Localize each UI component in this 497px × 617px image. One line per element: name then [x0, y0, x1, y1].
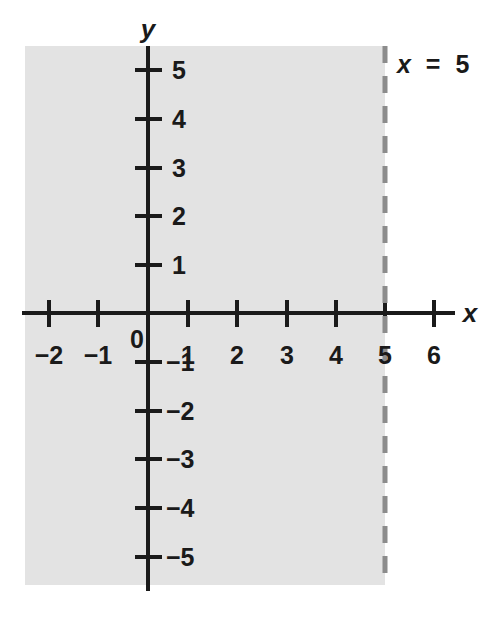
- y-tick-label: 4: [172, 105, 186, 133]
- x-tick-label: 2: [230, 341, 244, 369]
- y-tick-label: 2: [172, 202, 186, 230]
- equation-variable: x: [395, 50, 412, 78]
- y-tick-label: −1: [166, 348, 195, 376]
- x-tick-label: 4: [329, 341, 343, 369]
- coordinate-plane-figure: −2 −1 0 1 2 3 4 5 6 5 4 3 2 1 −1 −2 −3 −…: [0, 0, 497, 617]
- y-tick-label: 5: [172, 56, 186, 84]
- shaded-region-x-less-than-5: [25, 46, 385, 585]
- equation-value: 5: [455, 50, 469, 78]
- x-tick-label: −1: [84, 341, 113, 369]
- y-tick-label: −4: [166, 494, 195, 522]
- y-tick-label: 3: [172, 154, 186, 182]
- y-tick-label: 1: [172, 251, 186, 279]
- x-tick-label: −2: [35, 341, 64, 369]
- origin-label: 0: [130, 325, 144, 353]
- y-tick-label: −3: [166, 445, 195, 473]
- y-tick-label: −5: [166, 543, 195, 571]
- x-axis-label: x: [461, 298, 479, 328]
- x-tick-label: 5: [378, 341, 392, 369]
- graph-canvas: −2 −1 0 1 2 3 4 5 6 5 4 3 2 1 −1 −2 −3 −…: [0, 0, 497, 617]
- equation-label-x-equals-5: x = 5: [395, 50, 469, 78]
- equation-operator: =: [426, 50, 441, 78]
- x-tick-label: 3: [280, 341, 294, 369]
- x-tick-label: 6: [427, 341, 441, 369]
- y-tick-label: −2: [166, 397, 195, 425]
- y-axis-label: y: [139, 14, 157, 44]
